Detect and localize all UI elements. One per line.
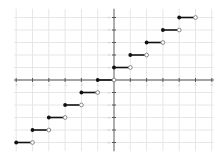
x-tick-label: -3 [64, 83, 67, 87]
x-tick-label: 4 [178, 83, 180, 87]
y-tick-label: 4 [108, 28, 110, 32]
y-tick-label: 1 [108, 66, 110, 70]
x-tick-label: -4 [47, 83, 50, 87]
closed-endpoint-dot [47, 116, 51, 120]
open-endpoint-dot [161, 41, 165, 45]
closed-endpoint-dot [177, 16, 181, 20]
y-tick-label: -4 [107, 128, 110, 132]
closed-endpoint-dot [128, 53, 132, 57]
open-endpoint-dot [112, 78, 116, 82]
closed-endpoint-dot [145, 41, 149, 45]
x-tick-label: 3 [162, 83, 164, 87]
open-endpoint-dot [31, 141, 35, 145]
x-tick-label: 2 [146, 83, 148, 87]
open-endpoint-dot [177, 28, 181, 32]
x-tick-label: -2 [80, 83, 83, 87]
closed-endpoint-dot [161, 28, 165, 32]
open-endpoint-dot [47, 128, 51, 132]
open-endpoint-dot [63, 116, 67, 120]
x-tick-label: 1 [129, 83, 131, 87]
open-endpoint-dot [145, 53, 149, 57]
closed-endpoint-dot [63, 103, 67, 107]
closed-endpoint-dot [80, 91, 84, 95]
step-function-plot: -6-5-4-3-2-1123456-5-4-3-2-112345 [0, 0, 224, 155]
y-tick-label: -3 [107, 116, 110, 120]
y-tick-label: 5 [108, 16, 110, 20]
y-tick-label: 2 [108, 53, 110, 57]
y-tick-label: -5 [107, 141, 110, 145]
y-tick-label: -2 [107, 103, 110, 107]
open-endpoint-dot [194, 16, 198, 20]
open-endpoint-dot [80, 103, 84, 107]
x-tick-label: 5 [195, 83, 197, 87]
closed-endpoint-dot [112, 66, 116, 70]
y-tick-label: -1 [107, 91, 110, 95]
x-tick-label: -5 [31, 83, 34, 87]
x-tick-label: 6 [211, 83, 213, 87]
closed-endpoint-dot [14, 141, 18, 145]
open-endpoint-dot [96, 91, 100, 95]
x-tick-label: -1 [96, 83, 99, 87]
y-tick-label: 3 [108, 41, 110, 45]
x-tick-label: -6 [15, 83, 18, 87]
closed-endpoint-dot [96, 78, 100, 82]
closed-endpoint-dot [31, 128, 35, 132]
open-endpoint-dot [128, 66, 132, 70]
